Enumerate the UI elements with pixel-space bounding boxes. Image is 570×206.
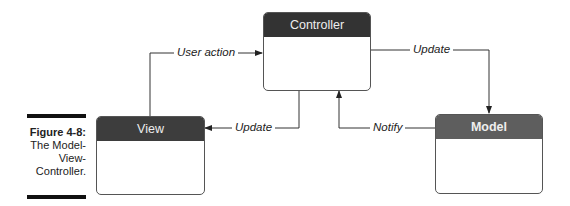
model-box: Model: [435, 114, 543, 194]
caption-line: Controller.: [27, 165, 86, 178]
view-header: View: [97, 117, 204, 141]
notify-label: Notify: [370, 121, 405, 134]
controller-header: Controller: [264, 13, 370, 37]
view-box: View: [96, 116, 205, 195]
model-header: Model: [436, 115, 542, 139]
user-action-label: User action: [174, 46, 238, 59]
figure-caption: Figure 4-8: The Model- View- Controller.: [27, 126, 86, 178]
caption-line: View-: [27, 152, 86, 165]
caption-bottom-bar: [27, 195, 86, 199]
update-view-label: Update: [232, 121, 275, 134]
caption-top-bar: [27, 114, 86, 118]
update-model-label: Update: [410, 43, 453, 56]
caption-line: The Model-: [27, 139, 86, 152]
figure-number: Figure 4-8:: [27, 126, 86, 139]
controller-box: Controller: [263, 12, 371, 91]
